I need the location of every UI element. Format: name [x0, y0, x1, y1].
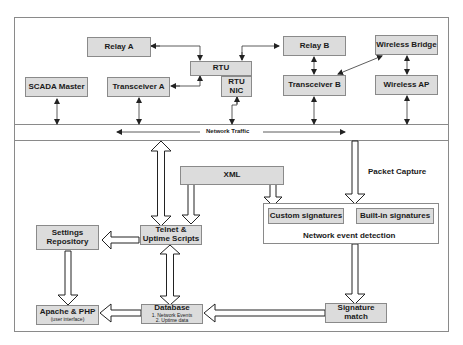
settings-repository-node: Settings Repository [36, 225, 99, 250]
database-node: Database 1. Network Events 2. Uptime dat… [141, 304, 203, 324]
rtu-nic-node: RTU NIC [221, 76, 252, 97]
network-event-detection-label: Network event detection [303, 231, 395, 240]
builtin-signatures-node: Built-in signatures [356, 208, 434, 224]
custom-signatures-node: Custom signatures [268, 208, 344, 224]
signature-match-label-line2: match [344, 313, 368, 322]
transceiver-b-label: Transceiver B [288, 81, 340, 90]
signature-match-node: Signature match [325, 303, 387, 323]
xml-label: XML [224, 171, 241, 180]
xml-node: XML [180, 166, 284, 185]
relay-b-label: Relay B [300, 42, 329, 51]
scada-master-label: SCADA Master [28, 83, 84, 92]
network-traffic-label: Network Traffic [206, 128, 249, 134]
wireless-ap-node: Wireless AP [375, 75, 438, 95]
rtu-node: RTU [190, 61, 252, 76]
apache-php-node: Apache & PHP (user interface) [36, 305, 99, 325]
rtu-label: RTU [213, 64, 229, 73]
builtin-signatures-label: Built-in signatures [360, 212, 430, 221]
wireless-ap-label: Wireless AP [384, 81, 430, 90]
wireless-bridge-node: Wireless Bridge [375, 35, 438, 55]
transceiver-b-node: Transceiver B [283, 75, 346, 96]
rtu-nic-label-line2: NIC [230, 87, 244, 96]
database-item-2: 2. Uptime data [156, 318, 189, 324]
transceiver-a-label: Transceiver A [112, 83, 164, 92]
transceiver-a-node: Transceiver A [107, 77, 170, 97]
diagram-canvas: Relay A RTU RTU NIC Relay B Wireless Bri… [0, 0, 463, 345]
telnet-label-line2: Uptime Scripts [143, 235, 199, 244]
telnet-uptime-scripts-node: Telnet & Uptime Scripts [140, 225, 202, 245]
apache-php-sublabel: (user interface) [51, 317, 85, 323]
relay-a-label: Relay A [104, 43, 133, 52]
wireless-bridge-label: Wireless Bridge [376, 41, 436, 50]
packet-capture-label: Packet Capture [368, 167, 426, 176]
relay-b-node: Relay B [283, 36, 346, 56]
custom-signatures-label: Custom signatures [270, 212, 342, 221]
settings-repository-label-line2: Repository [47, 238, 89, 247]
relay-a-node: Relay A [87, 37, 151, 57]
scada-master-node: SCADA Master [25, 77, 88, 97]
